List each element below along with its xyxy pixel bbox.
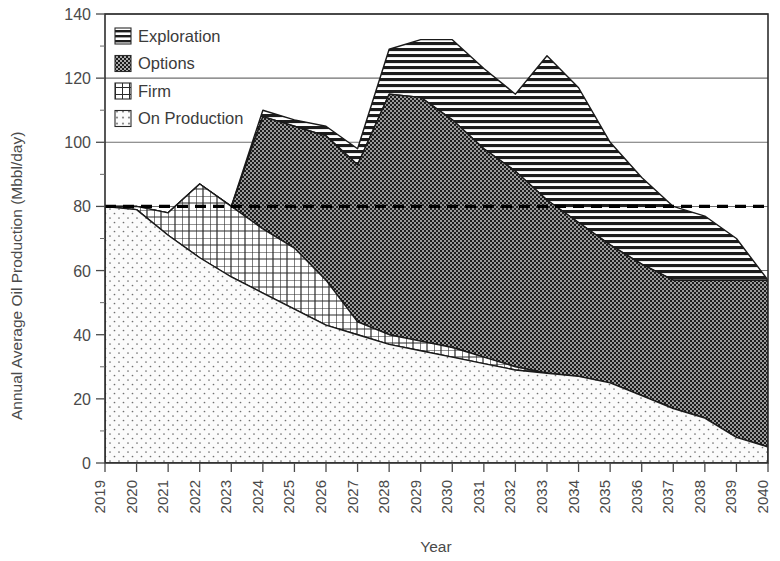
x-tick-label-2037: 2037 (659, 480, 676, 513)
legend-label-exploration: Exploration (138, 27, 221, 45)
x-tick-label-2028: 2028 (375, 480, 392, 513)
chart-figure: 020406080100120140 201920202021202220232… (0, 0, 780, 561)
y-tick-label-0: 0 (82, 455, 91, 472)
x-tick-label-2025: 2025 (280, 480, 297, 513)
x-tick-label-2039: 2039 (722, 480, 739, 513)
x-axis-ticks (105, 463, 768, 472)
x-tick-label-2035: 2035 (596, 480, 613, 513)
firm-swatch (115, 83, 131, 99)
legend-item-firm[interactable]: Firm (115, 82, 171, 100)
x-tick-label-2031: 2031 (470, 480, 487, 513)
x-tick-label-2027: 2027 (344, 480, 361, 513)
y-tick-label-120: 120 (64, 70, 91, 87)
x-tick-label-2026: 2026 (312, 480, 329, 513)
y-axis-title: Annual Average Oil Production (Mbbl/day) (8, 132, 25, 420)
x-tick-label-2033: 2033 (533, 480, 550, 513)
legend-label-options: Options (138, 54, 195, 72)
x-tick-label-2019: 2019 (91, 480, 108, 513)
legend-label-on-production: On Production (138, 109, 243, 127)
exploration-swatch (115, 28, 131, 44)
on-production-swatch (115, 111, 131, 127)
x-tick-label-2036: 2036 (628, 480, 645, 513)
options-swatch (115, 56, 131, 72)
x-tick-label-2038: 2038 (691, 480, 708, 513)
legend-item-options[interactable]: Options (115, 54, 195, 72)
y-tick-label-20: 20 (73, 391, 91, 408)
y-tick-label-140: 140 (64, 6, 91, 23)
x-tick-label-2029: 2029 (407, 480, 424, 513)
legend-item-exploration[interactable]: Exploration (115, 27, 221, 45)
x-tick-label-2023: 2023 (217, 480, 234, 513)
x-axis-title: Year (420, 538, 451, 555)
y-axis-tick-labels: 020406080100120140 (64, 6, 91, 472)
x-tick-label-2034: 2034 (565, 480, 582, 513)
x-tick-label-2040: 2040 (754, 480, 771, 513)
legend-label-firm: Firm (138, 82, 171, 100)
y-axis-ticks (96, 14, 105, 463)
x-tick-label-2021: 2021 (154, 480, 171, 513)
x-tick-label-2020: 2020 (123, 480, 140, 513)
x-axis-tick-labels: 2019202020212022202320242025202620272028… (91, 480, 771, 513)
x-tick-label-2030: 2030 (438, 480, 455, 513)
y-tick-label-100: 100 (64, 134, 91, 151)
stacked-area-chart: 020406080100120140 201920202021202220232… (0, 0, 780, 561)
x-tick-label-2024: 2024 (249, 480, 266, 513)
y-tick-label-60: 60 (73, 263, 91, 280)
x-tick-label-2032: 2032 (501, 480, 518, 513)
x-tick-label-2022: 2022 (186, 480, 203, 513)
y-tick-label-80: 80 (73, 198, 91, 215)
y-tick-label-40: 40 (73, 327, 91, 344)
